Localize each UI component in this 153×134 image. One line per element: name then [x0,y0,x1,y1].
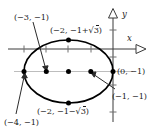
label-top-vertex-radical: √3 [89,25,99,35]
label-top-vertex-post: ) [99,25,102,35]
label-top-vertex-pre: (−2, −1+ [50,25,89,35]
ellipse-coordinate-figure: y x (−3, −1) (−2, −1+√3) (0, −1) (−1, −1… [0,0,153,134]
radical-bar-bottom [83,106,86,107]
y-axis-arrowhead [109,9,118,19]
label-point-minus4: (−4, −1) [4,118,39,126]
point-center [66,69,71,74]
label-bottom-vertex-pre: (−2, −1− [37,106,76,116]
label-point-minus3: (−3, −1) [14,13,49,21]
leader-lines [16,22,115,114]
point-focus-left [44,69,49,74]
label-point-bottom-vertex: (−2, −1−√3) [37,107,89,115]
label-bottom-vertex-post: ) [86,106,89,116]
y-axis-label: y [122,10,127,19]
point-left-vertex [22,69,27,74]
radical-bar-top [96,25,99,26]
label-point-top-vertex: (−2, −1+√3) [50,26,102,34]
x-axis-arrowhead [136,45,146,54]
point-bottom-vertex [66,101,71,106]
point-focus-right [88,69,93,74]
label-point-right-vertex: (0, −1) [117,67,145,75]
label-bottom-vertex-radicand: 3 [81,106,86,116]
label-top-vertex-radicand: 3 [94,25,99,35]
point-right-vertex [111,69,116,74]
leader-to-minus4-line [16,76,24,114]
label-point-minus1: (−1, −1) [112,92,147,100]
label-bottom-vertex-radical: √3 [76,106,86,116]
point-top-vertex [66,38,71,43]
x-axis-label: x [127,34,132,43]
